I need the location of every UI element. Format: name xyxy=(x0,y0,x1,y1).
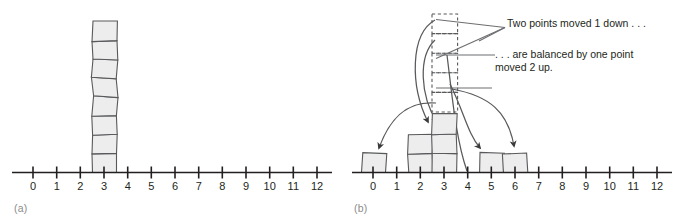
ghost-square xyxy=(432,53,458,73)
tick-label-a-11: 11 xyxy=(283,180,303,192)
square-x2-2 xyxy=(408,134,434,154)
tick-label-a-9: 9 xyxy=(236,180,256,192)
panel-a: 0 1 2 3 4 5 6 7 8 9 10 11 12 (a) xyxy=(0,0,340,224)
solid-squares xyxy=(362,114,528,173)
square xyxy=(92,41,118,60)
square-x0-1 xyxy=(362,153,387,173)
leader-tail xyxy=(479,28,505,42)
ghost-stack-x3 xyxy=(432,14,458,112)
tick-label-a-8: 8 xyxy=(212,180,232,192)
tick-label-b-3: 3 xyxy=(434,180,454,192)
square xyxy=(92,96,118,117)
tick-label-b-9: 9 xyxy=(576,180,596,192)
annotation-two-points-moved-down: Two points moved 1 down . . . xyxy=(507,17,646,30)
tick-label-a-12: 12 xyxy=(307,180,327,192)
square-stack-x3 xyxy=(91,21,118,173)
panel-b: Two points moved 1 down . . . . . . are … xyxy=(340,0,680,224)
tick-label-b-4: 4 xyxy=(458,180,478,192)
tick-label-b-6: 6 xyxy=(505,180,525,192)
square-x3-2 xyxy=(432,134,457,154)
tick-label-b-8: 8 xyxy=(552,180,572,192)
panel-a-caption: (a) xyxy=(14,202,27,214)
leader-branch-upper xyxy=(436,20,505,28)
panel-b-caption: (b) xyxy=(354,202,367,214)
square xyxy=(91,77,118,97)
tick-label-a-7: 7 xyxy=(189,180,209,192)
arrow-to-x6 xyxy=(452,89,514,146)
tick-label-a-2: 2 xyxy=(70,180,90,192)
tick-label-b-5: 5 xyxy=(481,180,501,192)
tick-label-a-6: 6 xyxy=(165,180,185,192)
tick-label-a-0: 0 xyxy=(23,180,43,192)
tick-label-b-11: 11 xyxy=(623,180,643,192)
tick-label-b-0: 0 xyxy=(363,180,383,192)
square-x3-3 xyxy=(432,114,458,135)
tick-label-a-3: 3 xyxy=(94,180,114,192)
number-line-a xyxy=(12,167,332,179)
tick-label-a-10: 10 xyxy=(260,180,280,192)
tick-label-a-1: 1 xyxy=(47,180,67,192)
ghost-square xyxy=(432,14,458,34)
square xyxy=(92,134,117,154)
tick-label-a-4: 4 xyxy=(118,180,138,192)
tick-label-b-1: 1 xyxy=(387,180,407,192)
arrow-to-x2-right xyxy=(423,40,437,122)
tick-label-b-7: 7 xyxy=(529,180,549,192)
tick-label-a-5: 5 xyxy=(141,180,161,192)
tick-label-b-2: 2 xyxy=(410,180,430,192)
tick-label-b-10: 10 xyxy=(600,180,620,192)
tick-label-b-12: 12 xyxy=(647,180,667,192)
square xyxy=(91,59,117,79)
square xyxy=(92,116,117,136)
leader-lines-anno-2 xyxy=(436,55,495,88)
square xyxy=(92,21,117,42)
annotation-balanced-by-one-point: . . . are balanced by one point moved 2 … xyxy=(495,48,633,73)
